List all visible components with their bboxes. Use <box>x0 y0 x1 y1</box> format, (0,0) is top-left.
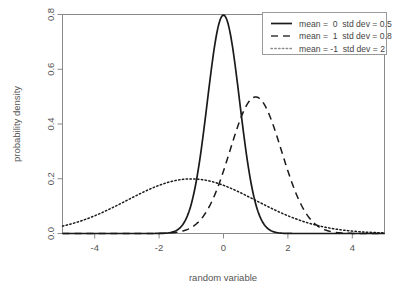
y-tick-label: 0.0 <box>45 227 56 240</box>
x-axis-title: random variable <box>189 272 257 283</box>
chart-legend: mean = 0 std dev = 0.5mean = 1 std dev =… <box>263 13 392 55</box>
x-tick-label: 4 <box>350 242 355 253</box>
y-axis-title: probability density <box>11 86 22 162</box>
legend-label-0: mean = 0 std dev = 0.5 <box>299 19 392 29</box>
y-axis-ticks: 0.00.20.40.60.8 <box>45 8 62 240</box>
x-tick-label: 2 <box>285 242 290 253</box>
y-tick-label: 0.6 <box>45 63 56 76</box>
x-tick-label: 0 <box>221 242 226 253</box>
curve-series-1 <box>63 97 385 234</box>
x-tick-label: -4 <box>90 242 98 253</box>
curve-series-2 <box>63 179 385 233</box>
legend-label-2: mean = -1 std dev = 2 <box>299 44 385 54</box>
chart-canvas: -4-2024 0.00.20.40.60.8 random variable … <box>0 0 404 297</box>
y-tick-label: 0.2 <box>45 172 56 185</box>
x-tick-label: -2 <box>155 242 163 253</box>
y-tick-label: 0.8 <box>45 8 56 21</box>
y-tick-label: 0.4 <box>45 117 56 130</box>
x-axis-ticks: -4-2024 <box>90 234 354 253</box>
legend-label-1: mean = 1 std dev = 0.8 <box>299 31 392 41</box>
normal-distribution-chart: -4-2024 0.00.20.40.60.8 random variable … <box>0 0 404 297</box>
